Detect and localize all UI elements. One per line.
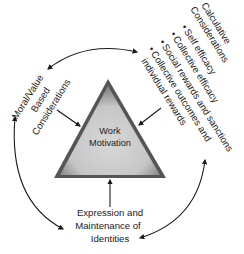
identity-label: Expression and Maintenance of Identities xyxy=(75,207,143,244)
moral-to-motivation-arrow xyxy=(57,110,80,126)
calculative-considerations-label: Calculative Considerations •Self efficac… xyxy=(139,0,235,153)
work-motivation-diagram: Work Motivation Moral/Value Based Consid… xyxy=(0,0,244,254)
calculative-to-motivation-arrow xyxy=(139,108,161,125)
work-motivation-triangle: Work Motivation xyxy=(54,79,166,178)
moral-considerations-label: Moral/Value Based Considerations xyxy=(9,72,72,137)
identity-line3: Identities xyxy=(91,233,130,244)
identity-line1: Expression and xyxy=(77,207,143,218)
moral-calculative-arc xyxy=(48,48,137,69)
center-label-line2: Motivation xyxy=(89,138,131,148)
center-label-line1: Work xyxy=(99,126,121,136)
identity-line2: Maintenance of xyxy=(75,220,141,231)
